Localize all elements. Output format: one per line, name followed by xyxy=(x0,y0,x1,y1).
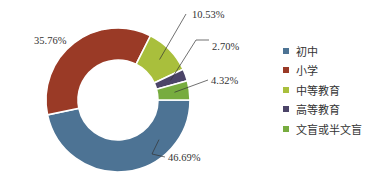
label-junior-high: 46.69% xyxy=(168,152,201,163)
legend-item-secondary-education: 中等教育 xyxy=(283,80,362,100)
legend-item-higher-education: 高等教育 xyxy=(283,100,362,120)
legend-label: 高等教育 xyxy=(296,101,340,117)
legend-swatch xyxy=(283,67,289,73)
legend-swatch xyxy=(283,87,289,93)
legend: 初中 小学 中等教育 高等教育 文盲或半文盲 xyxy=(283,41,362,139)
legend-label: 初中 xyxy=(296,43,318,59)
legend-swatch xyxy=(283,48,289,54)
label-illiterate: 4.32% xyxy=(211,75,238,86)
label-primary-school: 35.76% xyxy=(34,35,67,46)
legend-item-illiterate: 文盲或半文盲 xyxy=(283,119,362,139)
label-secondary-education: 10.53% xyxy=(192,9,225,20)
legend-label: 文盲或半文盲 xyxy=(296,121,362,137)
legend-swatch xyxy=(283,126,289,132)
donut-slices xyxy=(46,28,190,172)
legend-item-junior-high: 初中 xyxy=(283,41,362,61)
legend-item-primary-school: 小学 xyxy=(283,61,362,81)
label-higher-education: 2.70% xyxy=(212,41,239,52)
legend-swatch xyxy=(283,106,289,112)
legend-label: 小学 xyxy=(296,62,318,78)
legend-label: 中等教育 xyxy=(296,82,340,98)
